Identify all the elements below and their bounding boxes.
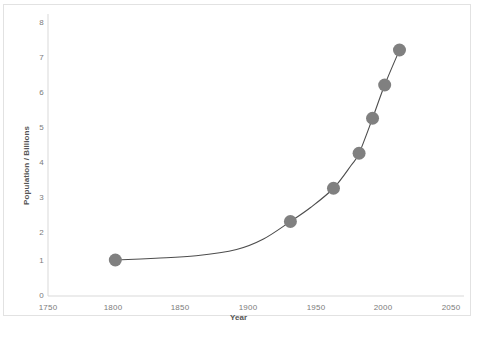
plot-canvas (0, 0, 482, 348)
data-point (284, 215, 297, 228)
data-point (378, 79, 391, 92)
data-point (327, 182, 340, 195)
data-point (109, 254, 122, 267)
data-point (393, 44, 406, 57)
data-point-group (109, 44, 406, 267)
population-chart: 8 7 6 5 4 3 2 1 0 Population / Billions … (0, 0, 482, 348)
data-point (366, 112, 379, 125)
data-point (353, 147, 366, 160)
